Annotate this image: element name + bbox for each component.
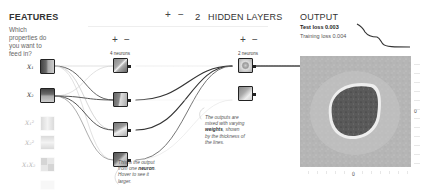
layer1-neuron-1-port [128,65,131,68]
layer2-neuron-1[interactable] [238,58,253,73]
layer1-neuron-3[interactable] [113,122,128,137]
test-loss: Test loss 0.003 [300,24,339,30]
feature-label-x1-squared: X₁² [25,119,34,126]
y-axis-ticks [414,56,420,167]
weights-annotation: The outputs are mixed with varying weigh… [205,115,245,146]
feature-label-x2: X₂ [27,91,34,98]
feature-label-x2-squared: X₂² [25,139,34,146]
feature-node-sin[interactable] [40,180,55,190]
feature-node-x1x2[interactable] [40,157,55,172]
x-axis-ticks [300,171,411,174]
layer2-neuron-2[interactable] [238,86,253,101]
loss-curve [355,20,415,50]
output-heatmap[interactable] [300,56,411,167]
layer1-neuron-1[interactable] [113,58,128,73]
layer2-neuron-1-port [253,65,256,68]
layer1-neuron-3-port [128,129,131,132]
feature-node-x1-squared[interactable] [40,116,55,131]
feature-label-x1x2: X₁X₂ [22,161,35,168]
feature-node-x2-squared[interactable] [40,135,55,150]
feature-node-x2[interactable] [40,88,55,103]
training-loss: Training loss 0.004 [300,33,346,39]
neuron-annotation: This is the output from one neuron. Hove… [118,160,156,185]
layer2-neuron-2-port [253,93,256,96]
output-title: OUTPUT [300,12,338,22]
layer1-neuron-2[interactable] [113,92,128,107]
feature-label-x1: X₁ [27,63,34,70]
layer1-neuron-2-port [128,99,131,102]
feature-node-x1[interactable] [40,59,55,74]
